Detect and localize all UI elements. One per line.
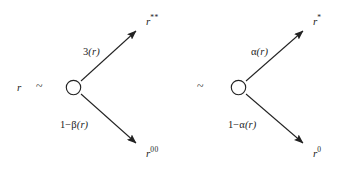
left-up-target-superscript: ** [150, 13, 158, 22]
right-up-edge-label: α(r) [251, 47, 268, 58]
left-node-circle [66, 80, 80, 94]
separator-relation-symbol: ~ [197, 80, 204, 92]
left-down-edge-argument: (r) [77, 119, 88, 130]
left-down-edge-label: 1−β(r) [60, 120, 88, 131]
right-up-target-superscript: * [317, 13, 321, 22]
right-down-edge-coefficient: 1−α [228, 119, 245, 130]
left-down-edge-coefficient: 1−β [60, 119, 77, 130]
source-variable: r [17, 82, 21, 93]
left-up-target-node: r** [146, 14, 159, 27]
left-down-target-node: r00 [146, 146, 159, 159]
branching-diagram-graphics [0, 0, 340, 174]
source-relation-symbol: ~ [36, 80, 43, 92]
left-up-edge-label: 3(r) [83, 47, 100, 58]
left-down-arrow [81, 94, 136, 143]
left-down-target-superscript: 00 [150, 145, 158, 154]
right-down-target-superscript: 0 [317, 145, 321, 154]
right-up-target-node: r* [313, 14, 321, 27]
right-up-edge-argument: (r) [257, 46, 268, 57]
right-node-circle [231, 80, 245, 94]
left-up-edge-argument: (r) [88, 46, 99, 57]
right-down-edge-argument: (r) [245, 119, 256, 130]
right-down-edge-label: 1−α(r) [228, 120, 256, 131]
diagram-canvas: r ~ 3(r) r** 1−β(r) r00 ~ α(r) r* 1−α(r)… [0, 0, 340, 174]
right-down-target-node: r0 [313, 146, 321, 159]
